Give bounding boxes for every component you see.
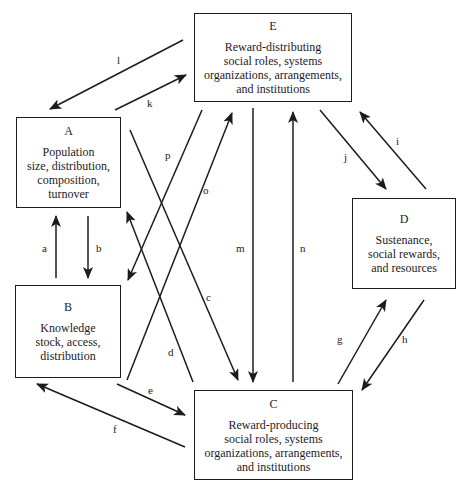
box-a-population: A Population size, distribution, composi… — [16, 117, 121, 208]
box-line: and institutions — [204, 82, 342, 96]
box-line: organizations, arrangements, — [204, 446, 342, 460]
box-e-reward-distributing: E Reward-distributing social roles, syst… — [194, 13, 352, 102]
box-description: Population size, distribution, compositi… — [27, 145, 110, 201]
arrow-label-a: a — [42, 243, 47, 254]
box-line: Reward-producing — [204, 418, 342, 432]
arrow-label-d: d — [168, 347, 174, 358]
box-line: distribution — [36, 349, 101, 363]
box-letter: D — [400, 212, 409, 227]
box-description: Reward-producing social roles, systems o… — [204, 418, 342, 474]
box-line: organizations, arrangements, — [204, 68, 342, 82]
arrow-label-g: g — [337, 334, 343, 345]
box-c-reward-producing: C Reward-producing social roles, systems… — [194, 390, 353, 480]
arrow-label-p: p — [165, 150, 171, 161]
arrow-c — [130, 130, 238, 380]
box-line: and resources — [368, 261, 440, 275]
arrow-label-b: b — [96, 243, 102, 254]
arrow-label-m: m — [236, 243, 245, 254]
box-line: stock, access, — [36, 335, 101, 349]
arrow-label-c: c — [206, 292, 211, 303]
arrow-label-o: o — [203, 185, 209, 196]
box-description: Reward-distributing social roles, system… — [204, 40, 342, 96]
arrow-label-e: e — [148, 385, 153, 396]
box-letter: B — [64, 300, 72, 315]
box-line: turnover — [27, 187, 110, 201]
box-line: Population — [27, 145, 110, 159]
arrow-p — [128, 110, 202, 280]
arrow-label-l: l — [117, 55, 120, 66]
arrow-label-n: n — [300, 243, 306, 254]
arrow-label-i: i — [396, 136, 399, 147]
arrow-label-k: k — [147, 98, 153, 109]
arrow-g — [338, 300, 386, 384]
arrow-l — [50, 40, 183, 109]
box-line: social roles, systems — [204, 54, 342, 68]
box-letter: A — [64, 124, 73, 139]
arrow-j — [320, 110, 386, 189]
box-d-sustenance: D Sustenance, social rewards, and resour… — [352, 198, 456, 289]
arrow-h — [362, 300, 424, 390]
box-line: and institutions — [204, 460, 342, 474]
arrow-label-h: h — [402, 334, 408, 345]
box-description: Knowledge stock, access, distribution — [36, 321, 101, 363]
box-line: Reward-distributing — [204, 40, 342, 54]
box-description: Sustenance, social rewards, and resource… — [368, 233, 440, 275]
arrow-label-f: f — [113, 424, 117, 435]
box-line: Knowledge — [36, 321, 101, 335]
arrow-i — [360, 112, 426, 189]
arrow-label-j: j — [344, 152, 347, 163]
arrow-f — [37, 384, 185, 447]
box-b-knowledge: B Knowledge stock, access, distribution — [15, 285, 121, 378]
box-line: Sustenance, — [368, 233, 440, 247]
box-line: composition, — [27, 173, 110, 187]
box-letter: E — [269, 19, 276, 34]
box-line: social roles, systems — [204, 432, 342, 446]
box-line: size, distribution, — [27, 159, 110, 173]
box-line: social rewards, — [368, 247, 440, 261]
box-letter: C — [269, 397, 277, 412]
